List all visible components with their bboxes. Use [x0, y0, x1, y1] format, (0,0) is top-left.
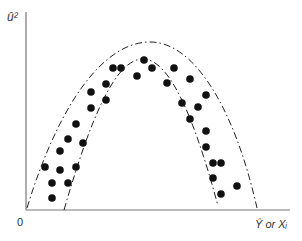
y-axis-label: û²: [7, 10, 18, 24]
data-point: [148, 64, 156, 72]
data-point: [217, 159, 225, 167]
data-point: [64, 179, 72, 187]
data-points: [41, 56, 241, 202]
data-point: [109, 64, 117, 72]
data-point: [194, 103, 202, 111]
data-point: [56, 147, 64, 155]
data-point: [217, 190, 225, 198]
data-point: [233, 182, 241, 190]
data-point: [202, 91, 210, 99]
origin-label: 0: [17, 216, 23, 228]
data-point: [117, 64, 125, 72]
data-point: [178, 99, 186, 107]
data-point: [170, 64, 178, 72]
inner-band-curve: [64, 59, 218, 210]
data-point: [87, 88, 95, 96]
data-point: [209, 174, 217, 182]
data-point: [186, 75, 194, 83]
data-point: [72, 163, 80, 171]
data-point: [41, 163, 49, 171]
data-point: [102, 96, 110, 104]
data-point: [209, 159, 217, 167]
data-point: [72, 120, 80, 128]
x-axis-label: Ŷ or Xᵢ: [255, 218, 287, 230]
scatter-diagram: [0, 0, 302, 241]
data-point: [202, 143, 210, 151]
data-point: [56, 166, 64, 174]
data-point: [79, 139, 87, 147]
data-point: [163, 79, 171, 87]
data-point: [87, 104, 95, 112]
data-point: [64, 135, 72, 143]
data-point: [202, 127, 210, 135]
data-point: [140, 56, 148, 64]
data-point: [133, 72, 141, 80]
data-point: [186, 115, 194, 123]
outer-band-curve: [27, 42, 257, 208]
data-point: [102, 80, 110, 88]
data-point: [48, 194, 56, 202]
data-point: [48, 179, 56, 187]
